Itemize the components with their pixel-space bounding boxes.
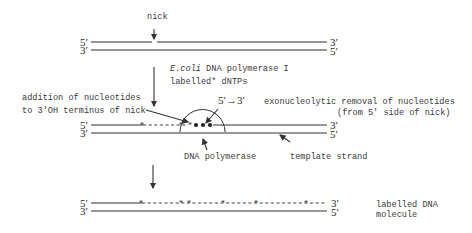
addition-label-line2: to 3'OH terminus of nick xyxy=(22,106,146,116)
nucleotide-dot xyxy=(194,123,198,127)
nucleotide-dot xyxy=(208,123,212,127)
label-mark: * xyxy=(221,199,225,208)
direction-label: 5′→3′ xyxy=(218,94,245,106)
nick-translation: addition of nucleotides to 3'OH terminus… xyxy=(22,93,455,162)
stage1-bottom-3prime: 3′ xyxy=(80,44,88,56)
nick-translation-diagram: nick 5′ 3′ 3′ 5′ E.coli DNA polymerase I… xyxy=(0,0,472,233)
enzyme-name: DNA polymerase I xyxy=(201,64,289,74)
dna-polymerase-shape xyxy=(180,110,225,133)
result-label-line1: labelled DNA xyxy=(376,200,439,210)
enzyme-organism: E.coli xyxy=(170,64,201,74)
labelled-product: 5′ 3′ * * * * * * 3′ 5′ labelled DNA mol… xyxy=(80,197,439,220)
enzyme-label: E.coli DNA polymerase I xyxy=(170,64,289,74)
label-mark: * xyxy=(188,121,192,130)
stage3-bottom-3prime: 3′ xyxy=(80,205,88,217)
template-strand-label: template strand xyxy=(290,152,367,162)
result-label-line2: molecule xyxy=(376,210,417,220)
stage2-bottom-3prime: 3′ xyxy=(80,127,88,139)
label-mark: * xyxy=(254,199,258,208)
dna-polymerase-label: DNA polymerase xyxy=(184,152,256,162)
nucleotide-dot xyxy=(201,123,205,127)
label-mark: * xyxy=(304,199,308,208)
nick-label: nick xyxy=(147,12,168,22)
stage3-bottom-5prime: 5′ xyxy=(331,206,339,218)
exo-label-line1: exonucleolytic removal of nucleotides xyxy=(264,97,455,107)
label-mark: * xyxy=(139,199,143,208)
exo-label-line2: (from 5' side of nick) xyxy=(337,108,450,118)
label-mark: * xyxy=(179,199,183,208)
template-arrow xyxy=(280,135,290,142)
stage2-bottom-5prime: 5′ xyxy=(330,128,338,140)
label-mark: * xyxy=(140,121,144,130)
stage1-bottom-5prime: 5′ xyxy=(330,45,338,57)
label-mark: * xyxy=(187,199,191,208)
polymerase-arrow xyxy=(203,139,207,150)
dntps-label: labelled* dNTPs xyxy=(170,77,247,87)
addition-label-line1: addition of nucleotides xyxy=(22,93,141,103)
nicked-duplex: nick 5′ 3′ 3′ 5′ xyxy=(80,12,338,57)
